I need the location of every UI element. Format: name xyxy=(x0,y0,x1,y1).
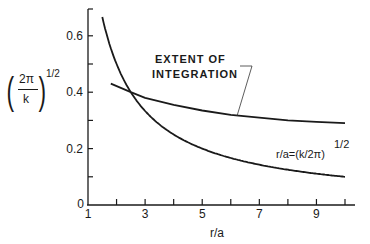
x-axis-label: r/a xyxy=(210,226,224,240)
y-label-exponent: 1/2 xyxy=(46,68,60,79)
y-label-numerator: 2π xyxy=(19,72,34,86)
y-label-denominator: k xyxy=(23,92,29,106)
annotation-formula-exponent: 1/2 xyxy=(334,138,349,150)
chart-svg: 00.20.40.613579r/aEXTENT OFINTEGRATIONr/… xyxy=(0,0,370,244)
x-tick-label: 7 xyxy=(256,207,263,221)
x-tick-label: 3 xyxy=(142,207,149,221)
right-paren: ) xyxy=(39,72,47,110)
annotation-extent-line1: EXTENT OF xyxy=(155,53,226,65)
y-tick-label: 0.2 xyxy=(66,142,83,156)
annotation-leader-line xyxy=(237,66,252,116)
curve-extent-of-integration xyxy=(111,84,345,124)
annotation-formula: r/a=(k/2π) xyxy=(276,148,325,160)
x-tick-label: 1 xyxy=(85,207,92,221)
x-tick-label: 5 xyxy=(199,207,206,221)
y-tick-label: 0 xyxy=(77,197,84,211)
annotation-extent-line2: INTEGRATION xyxy=(152,68,238,80)
left-paren: ( xyxy=(7,72,15,110)
x-tick-label: 9 xyxy=(313,207,320,221)
fraction-bar xyxy=(18,89,38,90)
y-tick-label: 0.6 xyxy=(66,29,83,43)
y-axis-label: ( 2π k ) 1/2 xyxy=(6,70,76,120)
